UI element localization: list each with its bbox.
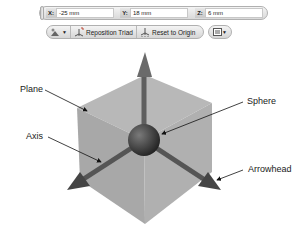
triad-diagram xyxy=(0,0,305,239)
plane-leader-line xyxy=(45,90,87,111)
arrowhead-leader-line xyxy=(217,170,243,180)
sphere xyxy=(128,124,160,156)
plane-callout: Plane xyxy=(20,84,43,94)
arrowhead-callout: Arrowhead xyxy=(248,164,292,174)
sphere-callout: Sphere xyxy=(247,96,276,106)
axis-callout: Axis xyxy=(26,131,43,141)
